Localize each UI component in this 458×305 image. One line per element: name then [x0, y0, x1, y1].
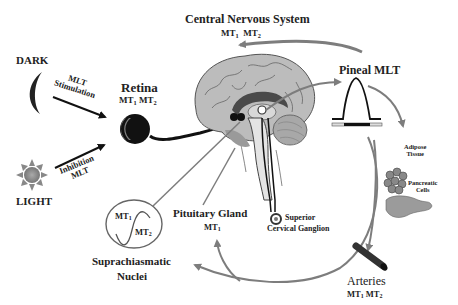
pancreas-icon: [386, 196, 432, 218]
circadian-wave-icon: [106, 200, 162, 248]
arteries-label: Arteries: [347, 275, 386, 287]
scn-mt1: MT1: [115, 212, 132, 222]
arteries-arrow: [368, 140, 376, 250]
adipose-line2: Tissue: [404, 151, 426, 158]
ganglion-icon: [271, 214, 281, 224]
retina-label: Retina: [121, 81, 158, 94]
adipose-cells-icon: [384, 168, 407, 194]
pituitary-receptors: MT1: [204, 223, 221, 233]
brain-icon: [195, 54, 315, 200]
artery-icon: [356, 246, 389, 272]
diagram-canvas: [0, 0, 458, 305]
cns-receptors: MT1 MT2: [221, 29, 261, 39]
cns-arrow: [240, 41, 362, 52]
eye-icon: [120, 114, 150, 144]
pineal-gland: [258, 106, 266, 114]
brain-pituitary-line: [203, 148, 235, 205]
scn-line1: Suprachiasmatic: [92, 256, 171, 267]
melatonin-peak-curve-icon: [332, 78, 382, 126]
light-label: LIGHT: [16, 196, 52, 207]
adipose-label: Adipose Tissue: [404, 144, 426, 157]
pineal-mlt-label: Pineal MLT: [339, 64, 400, 76]
scg-line2: Cervical Ganglion: [267, 225, 329, 233]
cns-label: Central Nervous System: [185, 13, 310, 25]
stimulation-arrow: [53, 97, 105, 117]
dark-label: DARK: [16, 55, 48, 66]
arteries-receptors: MT1 MT2: [347, 290, 382, 300]
scg-line1: Superior: [285, 214, 315, 222]
scn-line2: Nuclei: [117, 271, 147, 282]
pancreatic-label: Pancreatic Cells: [408, 180, 437, 193]
retina-receptors: MT1 MT2: [119, 96, 157, 106]
pituitary-label: Pituitary Gland: [173, 208, 247, 219]
moon-icon: [30, 72, 42, 114]
pancreatic-line2: Cells: [408, 187, 437, 194]
adipose-arrow: [368, 86, 403, 126]
scn-mt2: MT2: [135, 228, 152, 238]
sun-icon: [16, 159, 48, 191]
